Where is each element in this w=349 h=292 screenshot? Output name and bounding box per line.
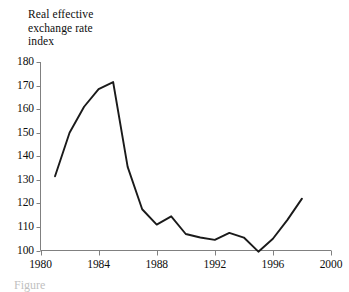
x-axis-tick-label: 1980 <box>21 259 61 271</box>
data-series-line <box>55 82 302 252</box>
axis-title-line-3: index <box>28 35 54 47</box>
y-axis-tick-label: 120 <box>4 197 34 209</box>
y-axis-ticks <box>37 63 41 252</box>
x-axis-ticks <box>42 251 332 256</box>
y-axis-tick-label: 160 <box>4 103 34 115</box>
y-axis-tick-label: 100 <box>4 245 34 257</box>
axes-group <box>41 62 332 251</box>
y-axis-tick-label: 150 <box>4 127 34 139</box>
y-axis-tick-label: 170 <box>4 80 34 92</box>
y-axis-tick-label: 110 <box>4 221 34 233</box>
axis-title-line-2: exchange rate <box>28 22 93 34</box>
figure-caption: Figure <box>14 279 45 292</box>
chart-axis-title: Real effective exchange rate index <box>28 8 93 49</box>
y-axis-tick-label: 140 <box>4 150 34 162</box>
x-axis-tick-label: 1988 <box>137 259 177 271</box>
y-axis-tick-label: 130 <box>4 174 34 186</box>
x-axis-tick-label: 1996 <box>253 259 293 271</box>
x-axis-tick-label: 1992 <box>195 259 235 271</box>
axis-title-line-1: Real effective <box>28 8 93 20</box>
y-axis-tick-label: 180 <box>4 56 34 68</box>
x-axis-tick-label: 1984 <box>79 259 119 271</box>
x-axis-tick-label: 2000 <box>311 259 349 271</box>
